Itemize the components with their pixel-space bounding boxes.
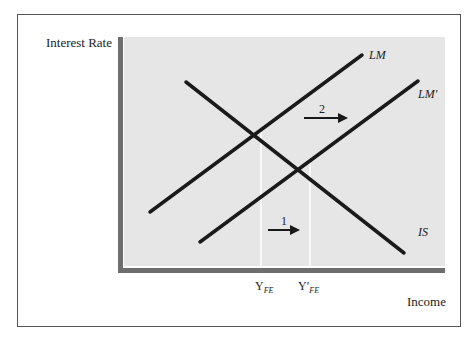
arrow-1-label: 1 (281, 214, 287, 228)
is-label: IS (417, 225, 428, 239)
y-axis-label: Interest Rate (46, 35, 112, 50)
arrow-2-label: 2 (319, 102, 325, 116)
lm-label: LM (368, 48, 387, 62)
x-axis (118, 268, 445, 273)
y-axis (118, 37, 123, 273)
lm-prime-label: LM′ (417, 87, 438, 101)
plot-area (124, 37, 445, 266)
yfe-prime-label: Y′FE (298, 279, 319, 295)
x-axis-label: Income (407, 294, 446, 309)
islm-diagram: Interest Rate Income LM LM′ IS 2 1 YFE Y… (0, 0, 474, 337)
yfe-label: YFE (255, 279, 274, 295)
